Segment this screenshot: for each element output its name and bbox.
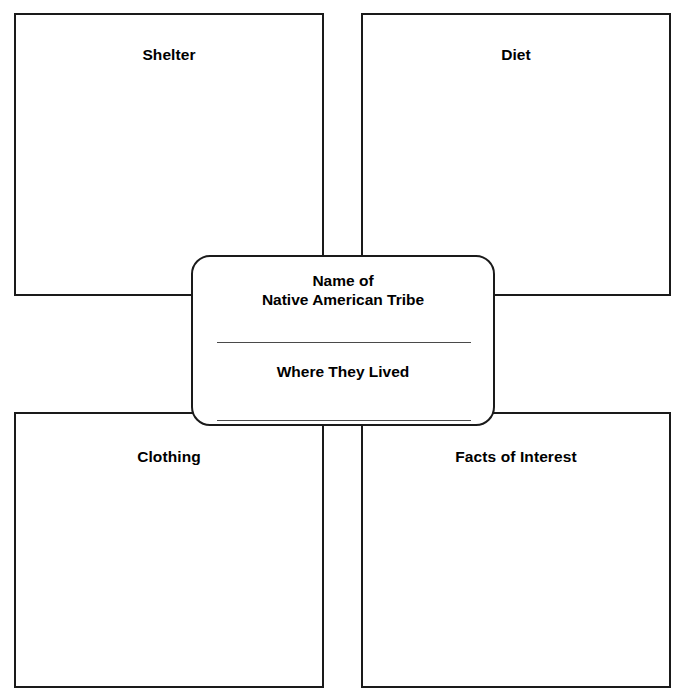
quadrant-label-facts-of-interest: Facts of Interest — [363, 448, 669, 466]
quadrant-clothing[interactable]: Clothing — [14, 412, 324, 688]
quadrant-label-shelter: Shelter — [16, 46, 322, 64]
quadrant-facts-of-interest[interactable]: Facts of Interest — [361, 412, 671, 688]
quadrant-label-diet: Diet — [363, 46, 669, 64]
quadrant-label-clothing: Clothing — [16, 448, 322, 466]
center-card-title-line-2: Native American Tribe — [262, 291, 424, 308]
graphic-organizer-worksheet: Shelter Diet Clothing Facts of Interest … — [0, 0, 684, 698]
quadrant-diet[interactable]: Diet — [361, 13, 671, 296]
center-hub-card[interactable]: Name of Native American Tribe Where They… — [191, 255, 495, 426]
where-they-lived-write-line[interactable] — [217, 420, 471, 421]
center-card-title-line-1: Name of — [312, 272, 373, 289]
center-card-subtitle: Where They Lived — [193, 363, 493, 381]
center-card-title: Name of Native American Tribe — [193, 271, 493, 309]
tribe-name-write-line[interactable] — [217, 342, 471, 343]
quadrant-shelter[interactable]: Shelter — [14, 13, 324, 296]
